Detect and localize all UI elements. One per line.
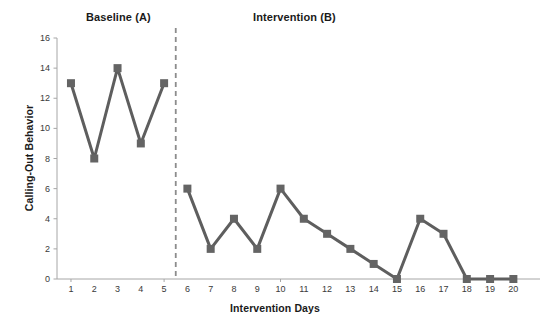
y-tick-label: 8 (24, 154, 50, 164)
data-point-marker (346, 245, 354, 253)
x-tick-label: 5 (152, 284, 176, 294)
data-point-marker (230, 215, 238, 223)
x-tick-label: 2 (82, 284, 106, 294)
x-axis-title: Intervention Days (0, 302, 550, 314)
plot-area (0, 0, 550, 326)
x-tick-label: 16 (408, 284, 432, 294)
x-tick-label: 1 (59, 284, 83, 294)
data-point-marker (370, 260, 378, 268)
x-tick-label: 12 (315, 284, 339, 294)
series-line (187, 189, 513, 279)
y-tick-label: 0 (24, 274, 50, 284)
data-point-marker (463, 275, 471, 283)
x-tick-label: 4 (129, 284, 153, 294)
x-tick-label: 11 (292, 284, 316, 294)
x-tick-label: 3 (106, 284, 130, 294)
x-tick-label: 7 (199, 284, 223, 294)
x-tick-label: 6 (175, 284, 199, 294)
chart-container: Baseline (A) Intervention (B) Calling-Ou… (0, 0, 550, 326)
data-point-marker (440, 230, 448, 238)
series-line (71, 68, 164, 158)
y-tick-label: 4 (24, 214, 50, 224)
data-point-marker (393, 275, 401, 283)
x-tick-label: 19 (478, 284, 502, 294)
phase-label-baseline: Baseline (A) (86, 11, 151, 23)
y-tick-label: 12 (24, 93, 50, 103)
x-tick-label: 15 (385, 284, 409, 294)
x-tick-label: 9 (245, 284, 269, 294)
y-tick-label: 16 (24, 33, 50, 43)
y-tick-label: 2 (24, 244, 50, 254)
data-point-marker (277, 185, 285, 193)
data-point-marker (183, 185, 191, 193)
data-point-marker (160, 79, 168, 87)
data-point-marker (486, 275, 494, 283)
x-tick-label: 18 (455, 284, 479, 294)
data-point-marker (416, 215, 424, 223)
data-point-marker (323, 230, 331, 238)
data-point-marker (300, 215, 308, 223)
x-tick-label: 17 (432, 284, 456, 294)
x-tick-label: 10 (269, 284, 293, 294)
data-point-marker (207, 245, 215, 253)
y-tick-label: 10 (24, 123, 50, 133)
axis-lines (54, 38, 541, 282)
data-point-marker (67, 79, 75, 87)
data-point-marker (509, 275, 517, 283)
data-point-marker (137, 139, 145, 147)
x-tick-label: 8 (222, 284, 246, 294)
y-tick-label: 14 (24, 63, 50, 73)
data-series-layer (67, 64, 517, 283)
phase-label-intervention: Intervention (B) (253, 11, 336, 23)
x-tick-label: 14 (362, 284, 386, 294)
x-tick-label: 20 (501, 284, 525, 294)
y-tick-label: 6 (24, 184, 50, 194)
data-point-marker (90, 155, 98, 163)
data-point-marker (253, 245, 261, 253)
data-point-marker (114, 64, 122, 72)
x-tick-label: 13 (338, 284, 362, 294)
